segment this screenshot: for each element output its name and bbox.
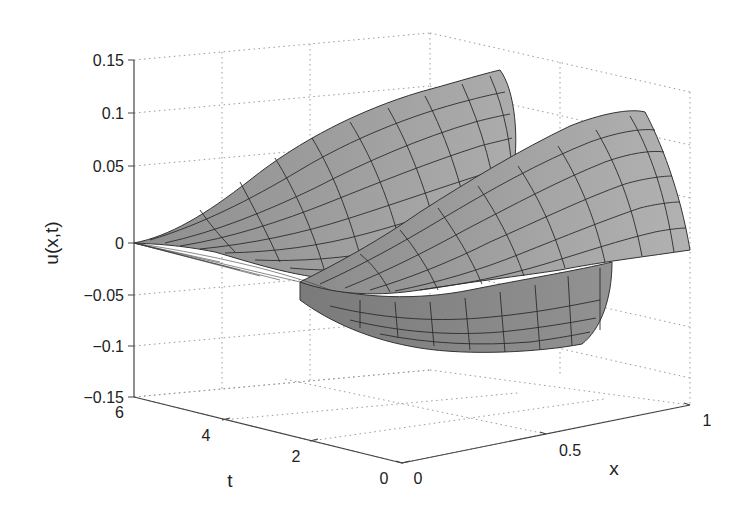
z-tick: 0 xyxy=(115,235,124,252)
x-tick-labels: 0 0.5 1 xyxy=(414,412,712,487)
z-tick-labels: 0.15 0.1 0.05 0 −0.05 −0.1 −0.15 xyxy=(84,52,125,406)
z-tick: −0.1 xyxy=(92,338,124,355)
t-tick: 2 xyxy=(292,448,301,465)
t-tick: 6 xyxy=(115,404,124,421)
surface-plot: 0.15 0.1 0.05 0 −0.05 −0.1 −0.15 6 4 2 0… xyxy=(0,0,746,514)
z-tick: 0.05 xyxy=(93,158,124,175)
x-tick: 0 xyxy=(414,470,423,487)
z-axis-label: u(x,t) xyxy=(41,221,62,264)
z-tick: 0.1 xyxy=(102,105,124,122)
t-axis-label: t xyxy=(227,470,233,491)
x-tick: 1 xyxy=(703,412,712,429)
z-tick: 0.15 xyxy=(93,52,124,69)
x-axis-label: x xyxy=(609,458,619,479)
x-tick: 0.5 xyxy=(559,442,581,459)
t-tick: 0 xyxy=(380,470,389,487)
t-tick: 4 xyxy=(202,427,211,444)
t-tick-labels: 6 4 2 0 xyxy=(115,404,388,487)
z-tick: −0.05 xyxy=(84,287,125,304)
